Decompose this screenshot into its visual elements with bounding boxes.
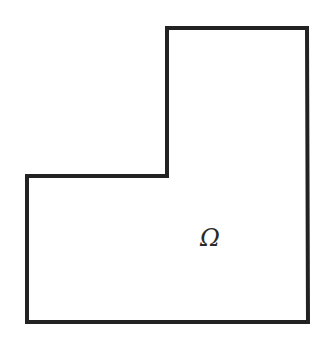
domain-label-omega: Ω bbox=[199, 224, 220, 252]
l-shaped-domain-diagram: Ω bbox=[0, 0, 328, 339]
domain-boundary bbox=[27, 28, 308, 322]
